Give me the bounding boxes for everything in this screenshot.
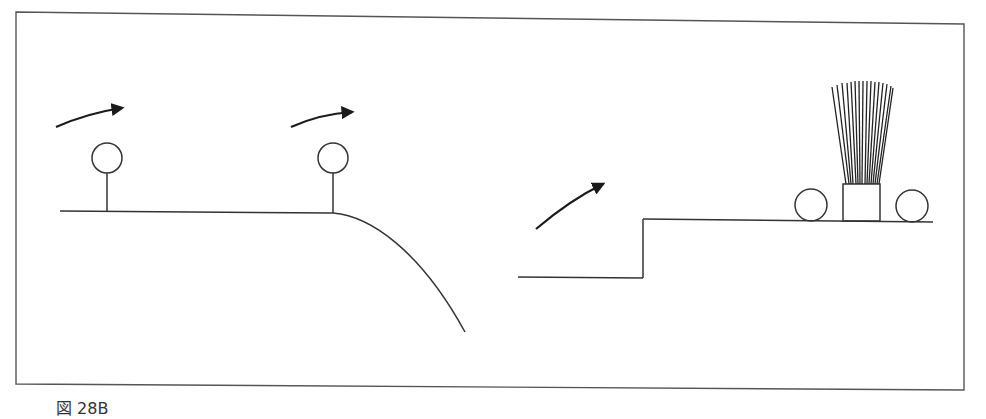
ball-icon (318, 143, 348, 173)
right-panel (518, 81, 933, 278)
roller-icon (896, 190, 928, 222)
left-panel (56, 108, 465, 332)
ground-line (60, 211, 333, 213)
lower-ground-line (518, 277, 643, 278)
brush-bristles-icon (832, 81, 893, 184)
upper-ground-line (643, 219, 933, 222)
motion-arrow-icon (536, 184, 603, 229)
figure-frame (16, 12, 964, 390)
curved-drop (333, 213, 465, 332)
brush-base (843, 184, 880, 221)
roller-icon (795, 189, 827, 221)
figure-caption: 図 28B (56, 399, 108, 419)
motion-arrow-icon (56, 108, 122, 127)
motion-arrow-icon (291, 112, 352, 127)
ball-icon (92, 143, 122, 173)
